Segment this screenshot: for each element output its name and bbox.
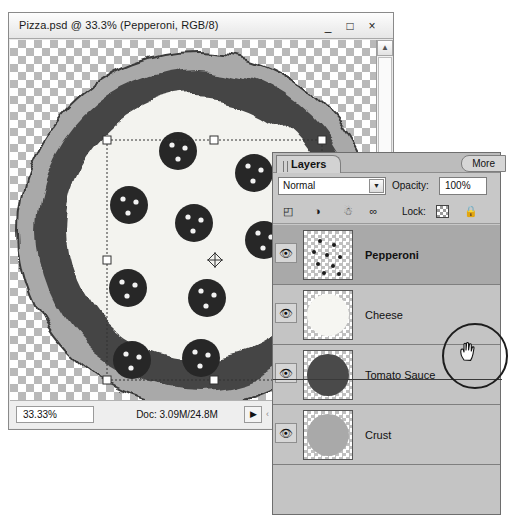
lock-label: Lock: (402, 206, 426, 217)
layer-thumbnail-cheese[interactable] (303, 290, 353, 340)
opacity-input[interactable]: 100% (439, 177, 487, 195)
layer-thumbnail-tomato-sauce[interactable] (303, 350, 353, 400)
adjustment-layer-icon[interactable]: ◑ (309, 204, 326, 219)
lock-transparency-icon[interactable] (436, 205, 449, 218)
layer-thumbnail-crust[interactable] (303, 410, 353, 460)
close-button[interactable]: × (365, 19, 379, 33)
title-bar[interactable]: Pizza.psd @ 33.3% (Pepperoni, RGB/8) _ □… (9, 13, 393, 39)
layer-visibility-toggle[interactable]: 👁 (275, 243, 297, 263)
eye-icon: 👁 (278, 246, 294, 260)
delete-layer-icon[interactable]: ☃ (339, 204, 356, 219)
scroll-up-arrow[interactable]: ▲ (377, 40, 393, 56)
layer-visibility-toggle[interactable]: 👁 (275, 363, 297, 383)
hand-cursor-icon (459, 341, 477, 361)
layer-name-cheese: Cheese (365, 309, 403, 321)
palette-grip-icon (283, 161, 288, 172)
minimize-button[interactable]: _ (321, 19, 335, 33)
new-fill-layer-icon[interactable]: ◰ (279, 204, 296, 219)
document-title: Pizza.psd @ 33.3% (Pepperoni, RGB/8) (19, 19, 218, 31)
tab-layers[interactable]: Layers (276, 155, 341, 173)
tab-layers-label: Layers (291, 158, 326, 170)
layer-visibility-toggle[interactable]: 👁 (275, 303, 297, 323)
opacity-label: Opacity: (392, 180, 429, 191)
more-button[interactable]: More (461, 155, 506, 172)
zoom-level-field[interactable]: 33.33% (16, 406, 94, 423)
chevron-down-icon[interactable]: ▼ (369, 179, 384, 193)
eye-icon: 👁 (278, 366, 294, 380)
blend-mode-value: Normal (283, 180, 315, 191)
layer-thumbnail-pepperoni[interactable] (303, 230, 353, 280)
lock-all-icon[interactable]: 🔒 (464, 204, 477, 219)
layer-visibility-toggle[interactable]: 👁 (275, 423, 297, 443)
eye-icon: 👁 (278, 426, 294, 440)
layer-row-crust[interactable]: 👁 Crust (273, 405, 500, 465)
layer-row-pepperoni[interactable]: 👁 Pepperoni (273, 225, 500, 285)
palette-tab-bar: Layers More (273, 153, 500, 173)
lock-toolbar-row: ◰ ◑ ☃ ∞ Lock: 🔒 (273, 200, 500, 224)
layer-name-pepperoni: Pepperoni (365, 249, 419, 261)
document-size-info: Doc: 3.09M/24.8M (102, 406, 252, 423)
link-layers-icon[interactable]: ∞ (365, 204, 382, 219)
maximize-button[interactable]: □ (343, 19, 357, 33)
blend-mode-select[interactable]: Normal ▼ (278, 177, 386, 195)
status-menu-arrow[interactable]: ▶ (244, 406, 262, 423)
layer-name-crust: Crust (365, 429, 391, 441)
blend-mode-row: Normal ▼ Opacity: 100% (273, 174, 500, 199)
eye-icon: 👁 (278, 306, 294, 320)
